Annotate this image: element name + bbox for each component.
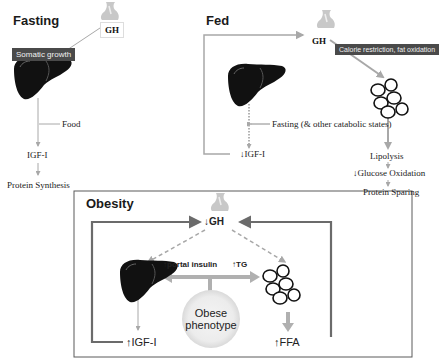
fed-fasting-label: Fasting (& other catabolic states) — [272, 119, 391, 129]
obesity-title: Obesity — [86, 196, 134, 211]
ffa-label: ↑FFA — [274, 336, 300, 348]
food-label: Food — [62, 119, 81, 129]
fed-gh-node: GH — [312, 30, 326, 48]
fasting-gh-node: GH — [100, 22, 124, 38]
fasting-igf-label: IGF-I — [27, 150, 48, 160]
protein-sparing-label: Protein Sparing — [363, 187, 419, 197]
fasting-text: Fasting — [272, 119, 299, 129]
somatic-growth-label: Somatic growth — [12, 48, 75, 61]
obese-line2: phenotype — [185, 319, 236, 331]
tg-label: ↑TG — [232, 260, 247, 269]
obese-phenotype-node: Obese phenotype — [182, 290, 240, 348]
portal-insulin-label: ↑portal insulin — [163, 260, 217, 269]
obesity-igf-label: ↑IGF-I — [126, 336, 157, 348]
fasting-gh-label: GH — [105, 25, 119, 35]
fed-title: Fed — [206, 13, 229, 28]
calorie-restriction-label: Calorie restriction, fat oxidation — [335, 44, 439, 55]
glucose-oxidation-label: ↓Glucose Oxidation — [353, 168, 425, 178]
lipolysis-label: Lipolysis — [370, 151, 404, 161]
fed-igf-label: ↓IGF-I — [240, 149, 265, 159]
catabolic-states-text: (& other catabolic states) — [301, 119, 392, 129]
fed-gh-label: GH — [312, 36, 326, 46]
fasting-title: Fasting — [13, 13, 59, 28]
obesity-gh-label: ↓GH — [204, 216, 224, 227]
protein-synthesis-label: Protein Synthesis — [7, 180, 70, 190]
obese-line1: Obese — [195, 307, 227, 319]
